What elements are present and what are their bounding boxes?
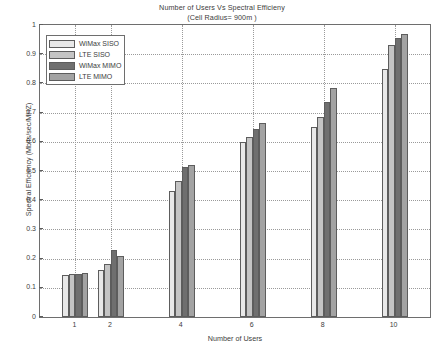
- legend-item: WiMax SISO: [49, 38, 121, 49]
- x-tick-label: 4: [166, 321, 196, 328]
- legend-swatch-lte-mimo: [49, 73, 75, 81]
- legend-label-wimax-siso: WiMax SISO: [79, 40, 119, 48]
- x-tick-label: 10: [379, 321, 409, 328]
- chart-legend: WiMax SISO LTE SISO WiMax MIMO LTE MIMO: [46, 35, 125, 85]
- x-axis-label: Number of Users: [39, 334, 431, 343]
- bar: [117, 256, 124, 317]
- gridline-horizontal: [40, 113, 430, 114]
- gridline-horizontal: [40, 229, 430, 230]
- legend-label-lte-siso: LTE SISO: [79, 51, 110, 59]
- chart-subtitle: (Cell Radius= 900m ): [0, 13, 444, 23]
- legend-label-wimax-mimo: WiMax MIMO: [79, 62, 121, 70]
- y-tick-label: 0.9: [2, 50, 36, 57]
- y-tick-label: 0.2: [2, 254, 36, 261]
- x-tick-label: 2: [95, 321, 125, 328]
- bar: [82, 273, 89, 317]
- legend-swatch-wimax-siso: [49, 40, 75, 48]
- y-tick-label: 0.1: [2, 283, 36, 290]
- chart-title: Number of Users Vs Spectral Efficieny: [0, 3, 444, 13]
- legend-item: LTE SISO: [49, 49, 121, 60]
- legend-swatch-wimax-mimo: [49, 62, 75, 70]
- bar: [188, 165, 195, 317]
- x-tick-label: 8: [308, 321, 338, 328]
- legend-item: LTE MIMO: [49, 71, 121, 82]
- x-tick-label: 6: [237, 321, 267, 328]
- y-tick-label: 0: [2, 313, 36, 320]
- legend-label-lte-mimo: LTE MIMO: [79, 73, 112, 81]
- legend-item: WiMax MIMO: [49, 60, 121, 71]
- legend-swatch-lte-siso: [49, 51, 75, 59]
- gridline-horizontal: [40, 171, 430, 172]
- bar: [330, 88, 337, 317]
- gridline-horizontal: [40, 200, 430, 201]
- gridline-horizontal: [40, 259, 430, 260]
- y-axis-label: Spectral Efficiency (Mbits/sec/MHZ): [24, 80, 33, 240]
- bar: [259, 123, 266, 317]
- bar: [401, 34, 408, 317]
- chart-figure: Number of Users Vs Spectral Efficieny (C…: [0, 0, 444, 346]
- chart-title-block: Number of Users Vs Spectral Efficieny (C…: [0, 3, 444, 23]
- gridline-horizontal: [40, 142, 430, 143]
- x-tick-label: 1: [59, 321, 89, 328]
